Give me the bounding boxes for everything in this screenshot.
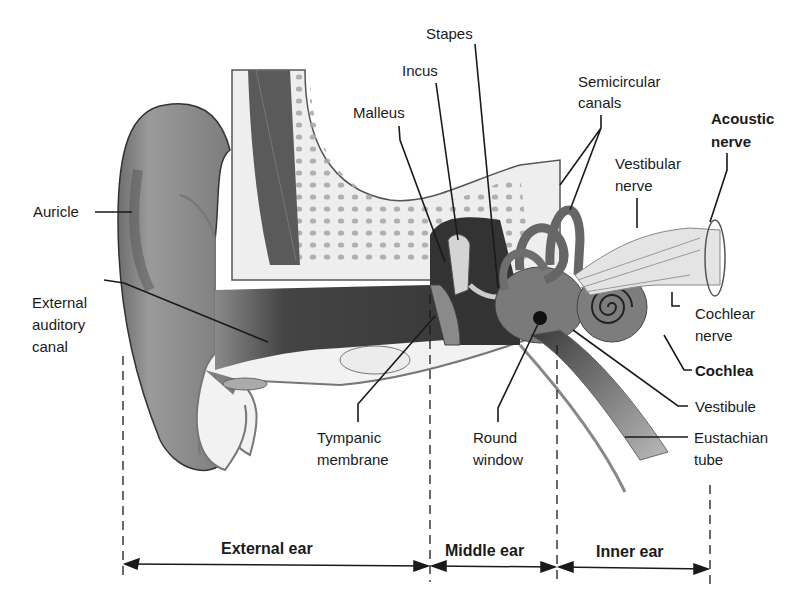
ear-illustration [0,0,812,603]
label-tympanic-line2: membrane [317,451,389,468]
label-acoustic-nerve-line2: nerve [711,133,751,150]
label-auricle: Auricle [33,203,79,220]
label-cochlear-nerve-line1: Cochlear [695,305,755,322]
label-round-window-line2: window [473,451,523,468]
label-vestibular-nerve-line1: Vestibular [615,155,681,172]
label-incus: Incus [402,62,438,79]
label-eustachian-line1: Eustachian [694,429,768,446]
label-external-canal-line3: canal [32,338,68,355]
ear-anatomy-diagram: Stapes Incus Malleus Semicircular canals… [0,0,812,603]
temporal-bone [232,70,560,280]
section-middle-ear: Middle ear [445,542,524,560]
label-stapes: Stapes [426,25,473,42]
nerve-bundle [575,220,725,296]
label-round-window-line1: Round [473,429,517,446]
label-semicircular-line2: canals [578,94,621,111]
section-external-ear: External ear [221,540,313,558]
label-acoustic-nerve-line1: Acoustic [711,110,774,127]
label-tympanic-line1: Tympanic [317,429,381,446]
label-vestibule: Vestibule [695,398,756,415]
label-eustachian-line2: tube [694,451,723,468]
label-vestibular-nerve-line2: nerve [615,177,653,194]
label-semicircular-line1: Semicircular [578,73,661,90]
section-inner-ear: Inner ear [596,543,664,561]
section-arrows [125,559,708,574]
label-cochlea: Cochlea [695,362,753,379]
label-external-canal-line2: auditory [32,316,85,333]
label-external-canal-line1: External [32,294,87,311]
label-cochlear-nerve-line2: nerve [695,327,733,344]
label-malleus: Malleus [353,104,405,121]
